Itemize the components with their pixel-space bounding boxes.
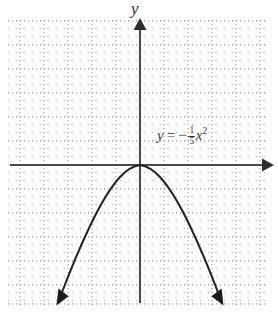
equation-operator: =	[167, 127, 176, 143]
y-axis-label: y	[131, 0, 139, 19]
equation-sign: −	[178, 127, 187, 143]
graph-figure: y y=−15x2	[0, 0, 278, 317]
coordinate-plane	[0, 0, 278, 317]
fraction-denominator: 5	[188, 136, 195, 147]
equation-annotation: y=−15x2	[157, 126, 207, 147]
minor-grid	[8, 20, 268, 305]
fraction-numerator: 1	[188, 126, 195, 136]
equation-exponent: 2	[203, 126, 208, 136]
equation-variable: x	[196, 127, 203, 143]
equation-lhs: y	[157, 127, 164, 143]
equation-fraction: 15	[188, 126, 195, 146]
